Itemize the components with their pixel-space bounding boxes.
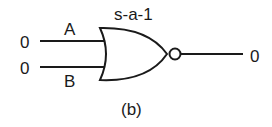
input-a-label: A [64,21,75,38]
fault-label: s-a-1 [114,6,153,23]
nor-gate-body [100,28,167,80]
output-value: 0 [250,48,259,65]
input-b-value: 0 [20,60,29,77]
nor-gate-fault-diagram: 0 A 0 B s-a-1 0 (b) [0,0,272,127]
input-a-value: 0 [20,34,29,51]
caption: (b) [121,101,142,118]
input-b-label: B [64,73,75,90]
inversion-bubble [170,49,181,60]
